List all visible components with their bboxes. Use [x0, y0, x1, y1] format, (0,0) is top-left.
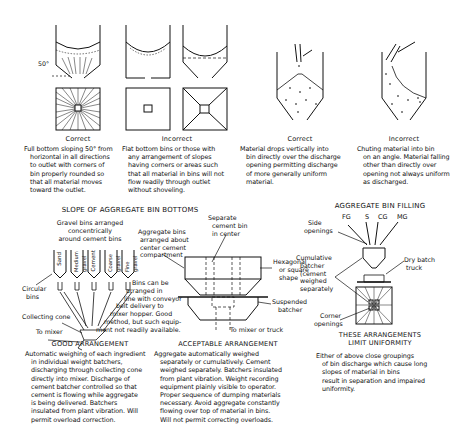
incorrect-partial-slope-elevation: [183, 25, 227, 78]
good-arrangement-caption: Automatic weighing of each ingredient in…: [25, 350, 145, 424]
bin-filling-diagram: [348, 222, 398, 324]
chute-label-fg: FG: [342, 214, 351, 222]
bin-filling-title: AGGREGATE BIN FILLING: [325, 202, 435, 210]
gravel-bins-label: Gravel bins arranged concentrically arou…: [50, 219, 130, 242]
incorrect-angled-chute-bin: [382, 42, 426, 120]
correct-vertical-fill-bin: [277, 44, 323, 120]
acceptable-arrangement-caption: Aggregate automatically weighed separate…: [154, 350, 282, 424]
panel-3-caption: Material drops vertically into bin direc…: [240, 145, 341, 186]
collecting-cone-label: Collecting cone: [22, 313, 70, 321]
panel-2-verdict: Incorrect: [155, 135, 199, 143]
chute-label-mg: MG: [397, 214, 408, 222]
aggregate-bins-label: Aggregate bins arranged about center cem…: [138, 228, 189, 259]
limit-uniformity-caption: Either of above close groupings of bin d…: [316, 352, 427, 393]
cumulative-batcher-label: Cumulative batcher (cement weighed separ…: [296, 254, 333, 293]
correct-sloped-bin-elevation: [52, 25, 100, 78]
panel-3-verdict: Correct: [278, 135, 322, 143]
good-arrangement-title: GOOD ARRANGEMENT: [50, 340, 130, 348]
side-openings-label: Side openings: [304, 219, 333, 235]
limit-uniformity-title: THESE ARRANGEMENTS LIMIT UNIFORMITY: [330, 331, 430, 347]
to-mixer-truck-label: To mixer or truck: [230, 326, 283, 334]
leader-lines: [36, 232, 404, 342]
bin-label-fine-gravel: Fine gravel: [124, 250, 134, 272]
suspended-batcher-label: Suspended batcher: [272, 298, 307, 314]
to-mixer-label: To mixer: [36, 328, 63, 336]
bin-label-sand: Sand: [56, 252, 64, 266]
bin-label-medium-gravel: Medium gravel: [73, 250, 83, 272]
panel-4-verdict: Incorrect: [382, 135, 426, 143]
incorrect-partial-slope-plan: [183, 88, 227, 130]
panel-4-caption: Chuting material into bin on an angle. M…: [357, 145, 450, 186]
separate-cement-label: Separate cement bin in center: [208, 214, 248, 237]
panel-2-caption: Flat bottom bins or those with any arran…: [122, 145, 224, 194]
circular-bins-label: Circular bins: [22, 285, 46, 301]
panel-1-verdict: Correct: [56, 135, 100, 143]
acceptable-arrangement-title: ACCEPTABLE ARRANGEMENT: [168, 340, 288, 348]
correct-sloped-bin-plan: [56, 88, 100, 130]
chute-label-cg: CG: [378, 214, 388, 222]
acceptable-arrangement-bin: [178, 257, 268, 330]
corner-openings-label: Corner openings: [314, 312, 343, 328]
bins-inline-label: Bins can be arranged in line with convey…: [96, 279, 182, 334]
panel-1-caption: Full bottom sloping 50° from horizontal …: [24, 145, 113, 194]
bin-label-coarse-gravel: Coarse gravel: [107, 250, 117, 272]
chute-label-s: S: [365, 214, 369, 222]
slope-section-title: SLOPE OF AGGREGATE BIN BOTTOMS: [60, 206, 200, 214]
dry-batch-truck-label: Dry batch truck: [404, 256, 435, 272]
angle-label: 50°: [38, 60, 49, 68]
incorrect-flat-bin-plan: [126, 88, 170, 130]
incorrect-flat-bin-elevation: [126, 25, 170, 78]
bin-label-cement: Cement: [90, 250, 98, 272]
